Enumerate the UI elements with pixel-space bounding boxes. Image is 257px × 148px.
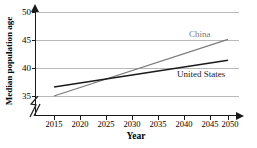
- series-label-china: China: [189, 29, 211, 39]
- chart-figure: Median population age 50 45 40 35 2015 2…: [0, 0, 257, 148]
- series-line-china: [54, 39, 228, 96]
- series-label-united-states: United States: [177, 69, 225, 79]
